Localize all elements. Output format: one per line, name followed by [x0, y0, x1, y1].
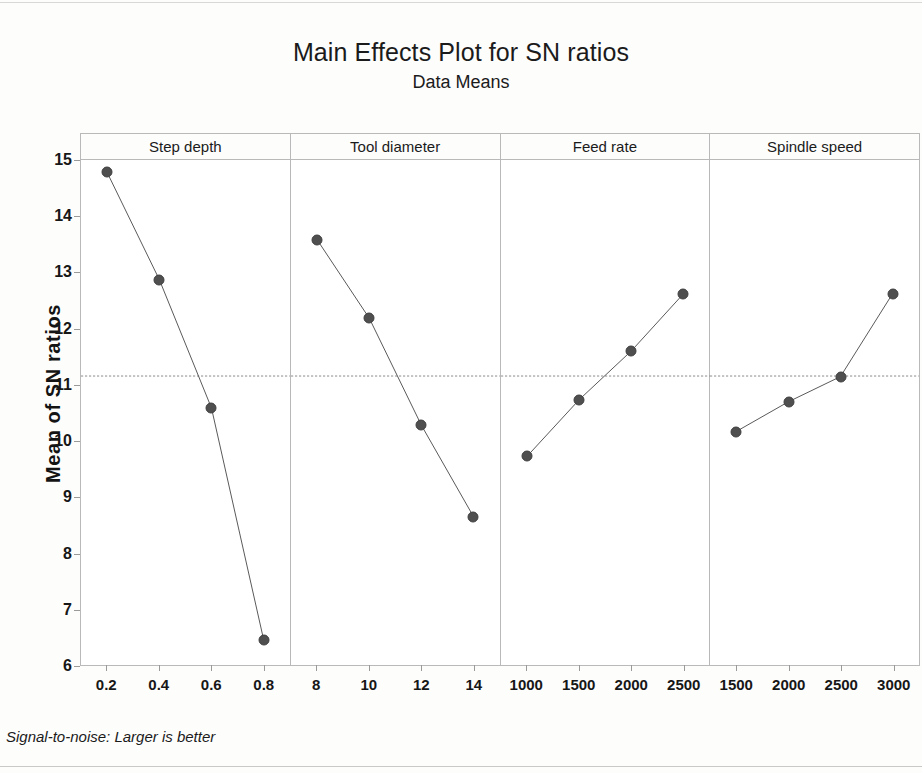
x-tick-label: 0.8: [253, 676, 274, 693]
x-tick-label: 2500: [825, 676, 858, 693]
x-tick-label: 2000: [615, 676, 648, 693]
y-tick-label: 6: [12, 657, 72, 675]
panel-row: [80, 160, 920, 666]
panel-2: [291, 160, 501, 665]
series-line: [317, 240, 474, 517]
data-point[interactable]: [887, 288, 898, 299]
x-tick-mark: [159, 665, 160, 671]
x-tick-mark: [894, 665, 895, 671]
x-tick-mark: [369, 665, 370, 671]
y-tick-label: 9: [12, 488, 72, 506]
y-tick-label: 12: [12, 320, 72, 338]
panel-4: [710, 160, 919, 665]
panel-plot-3: [501, 160, 710, 665]
panel-header-2: Tool diameter: [291, 134, 501, 159]
panel-plot-1: [81, 160, 290, 665]
x-tick-label: 10: [360, 676, 377, 693]
y-tick-label: 15: [12, 151, 72, 169]
data-point[interactable]: [468, 511, 479, 522]
x-tick-mark: [579, 665, 580, 671]
x-tick-mark: [474, 665, 475, 671]
x-tick-label: 2000: [772, 676, 805, 693]
y-tick-label: 13: [12, 263, 72, 281]
bottom-divider: [0, 766, 922, 767]
data-point[interactable]: [573, 394, 584, 405]
series-line: [107, 172, 264, 639]
x-tick-mark: [264, 665, 265, 671]
y-tick-mark: [74, 160, 80, 161]
y-tick-mark: [74, 216, 80, 217]
y-tick-label: 7: [12, 601, 72, 619]
x-tick-mark: [841, 665, 842, 671]
x-tick-label: 8: [312, 676, 320, 693]
x-tick-label: 3000: [877, 676, 910, 693]
x-tick-mark: [316, 665, 317, 671]
panel-3: [501, 160, 711, 665]
x-tick-mark: [106, 665, 107, 671]
data-point[interactable]: [364, 313, 375, 324]
x-tick-mark: [789, 665, 790, 671]
data-point[interactable]: [783, 396, 794, 407]
x-tick-label: 1000: [510, 676, 543, 693]
y-tick-mark: [74, 272, 80, 273]
data-point[interactable]: [835, 371, 846, 382]
x-axis-ticks: 0.20.40.60.88101214100015002000250015002…: [80, 666, 920, 706]
plot-area: Step depthTool diameterFeed rateSpindle …: [80, 133, 920, 666]
y-tick-mark: [74, 554, 80, 555]
x-tick-label: 2500: [667, 676, 700, 693]
x-tick-label: 14: [465, 676, 482, 693]
chart-title: Main Effects Plot for SN ratios: [0, 38, 922, 67]
data-point[interactable]: [678, 288, 689, 299]
chart-canvas: Main Effects Plot for SN ratios Data Mea…: [0, 0, 922, 773]
series-line: [527, 294, 684, 457]
x-tick-mark: [526, 665, 527, 671]
x-tick-mark: [211, 665, 212, 671]
data-point[interactable]: [625, 345, 636, 356]
y-tick-label: 11: [12, 376, 72, 394]
data-point[interactable]: [154, 274, 165, 285]
data-point[interactable]: [416, 420, 427, 431]
data-point[interactable]: [311, 234, 322, 245]
y-tick-label: 14: [12, 207, 72, 225]
x-tick-label: 0.2: [96, 676, 117, 693]
y-tick-mark: [74, 385, 80, 386]
panel-header-band: Step depthTool diameterFeed rateSpindle …: [80, 133, 920, 160]
y-tick-mark: [74, 610, 80, 611]
series-line: [736, 294, 893, 432]
x-tick-label: 0.6: [201, 676, 222, 693]
data-point[interactable]: [258, 634, 269, 645]
y-tick-label: 10: [12, 432, 72, 450]
y-tick-mark: [74, 329, 80, 330]
x-tick-label: 12: [413, 676, 430, 693]
chart-subtitle: Data Means: [0, 72, 922, 93]
data-point[interactable]: [521, 451, 532, 462]
data-point[interactable]: [731, 426, 742, 437]
title-block: Main Effects Plot for SN ratios Data Mea…: [0, 38, 922, 92]
panel-plot-4: [710, 160, 919, 665]
footnote: Signal-to-noise: Larger is better: [6, 728, 215, 745]
x-tick-mark: [631, 665, 632, 671]
panel-plot-2: [291, 160, 500, 665]
data-point[interactable]: [206, 403, 217, 414]
top-divider: [0, 2, 922, 3]
x-tick-mark: [421, 665, 422, 671]
y-tick-mark: [74, 441, 80, 442]
x-tick-label: 1500: [720, 676, 753, 693]
x-tick-label: 0.4: [148, 676, 169, 693]
y-tick-mark: [74, 497, 80, 498]
data-point[interactable]: [102, 167, 113, 178]
y-tick-label: 8: [12, 545, 72, 563]
x-tick-mark: [736, 665, 737, 671]
panel-header-3: Feed rate: [501, 134, 711, 159]
panel-header-4: Spindle speed: [710, 134, 919, 159]
panel-1: [81, 160, 291, 665]
x-tick-mark: [684, 665, 685, 671]
panel-header-1: Step depth: [81, 134, 291, 159]
x-tick-label: 1500: [562, 676, 595, 693]
